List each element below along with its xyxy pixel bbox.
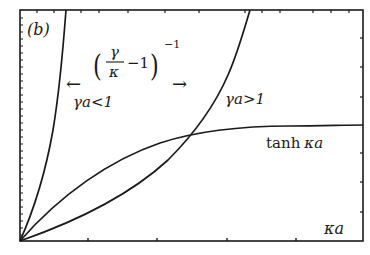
gamma-a-greater-than-one-label: γa>1 bbox=[225, 90, 265, 108]
right-arrow-icon: → bbox=[172, 73, 187, 94]
left-arrow-icon: ← bbox=[66, 73, 81, 94]
expression-minus-one: −1 bbox=[127, 54, 149, 72]
expression-denominator: κ bbox=[108, 63, 119, 81]
diagram-canvas: (b) ( γ κ −1 ) −1 ← → γa<1 γa>1 tanhκa κ… bbox=[0, 0, 370, 255]
tanh-label: tanhκa bbox=[266, 134, 323, 152]
steep-curve bbox=[20, 10, 66, 241]
panel-label: (b) bbox=[27, 20, 50, 39]
crossover-expression: ( γ κ −1 ) −1 bbox=[93, 38, 180, 83]
x-axis-label: κa bbox=[323, 219, 344, 238]
expression-numerator: γ bbox=[110, 43, 119, 61]
left-paren: ( bbox=[93, 48, 102, 83]
expression-exponent: −1 bbox=[164, 38, 180, 51]
right-paren: ) bbox=[150, 48, 159, 83]
tanh-label-func: tanh bbox=[266, 134, 301, 152]
tanh-label-arg: κa bbox=[303, 134, 323, 152]
gamma-a-less-than-one-label: γa<1 bbox=[73, 93, 113, 111]
